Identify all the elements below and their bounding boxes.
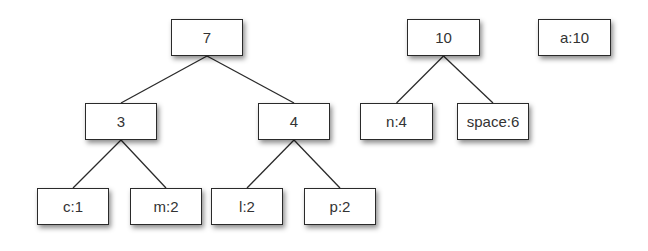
edge-n10-n4b: [397, 56, 444, 103]
node-10: 10: [407, 19, 480, 56]
leaf-p: p:2: [304, 188, 376, 225]
edge-n7-n3: [121, 56, 207, 103]
leaf-m: m:2: [130, 188, 202, 225]
node-4: 4: [258, 103, 330, 140]
huffman-forest-diagram: 7 3 4 c:1 m:2 l:2 p:2 10 n:4 space:6 a:1…: [0, 0, 648, 251]
edge-n4-l2: [247, 140, 294, 188]
leaf-l: l:2: [211, 188, 283, 225]
leaf-c: c:1: [37, 188, 109, 225]
edge-n3-c1: [73, 140, 121, 188]
edge-n4-p2: [294, 140, 340, 188]
leaf-a: a:10: [538, 19, 611, 56]
edge-n3-m2: [121, 140, 166, 188]
node-3: 3: [85, 103, 157, 140]
edge-n10-sp6: [444, 56, 494, 103]
leaf-space: space:6: [457, 103, 529, 140]
leaf-n: n:4: [360, 103, 433, 140]
node-7: 7: [171, 19, 243, 56]
edge-n7-n4: [207, 56, 294, 103]
